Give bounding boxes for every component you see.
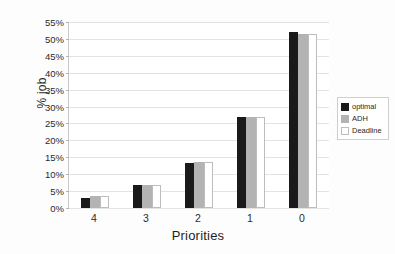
- bar-deadline-p3: [152, 185, 161, 208]
- bar-optimal-p4: [81, 198, 90, 208]
- bar-group: [133, 22, 161, 208]
- y-axis-tick-label: 55%: [28, 17, 64, 28]
- x-axis-tick-labels: 43210: [68, 212, 328, 228]
- bar-deadline-p0: [308, 34, 317, 208]
- bar-group: [81, 22, 109, 208]
- x-axis-title: Priorities: [68, 228, 328, 243]
- bar-optimal-p0: [289, 32, 298, 208]
- x-axis-tick-label: 1: [247, 212, 253, 224]
- bar-adh-p1: [246, 117, 255, 208]
- legend-label: Deadline: [352, 126, 382, 135]
- bars-layer: [69, 22, 329, 208]
- bar-optimal-p2: [185, 163, 194, 208]
- y-axis-tickmark: [66, 208, 69, 209]
- y-axis-tick-label: 20%: [28, 135, 64, 146]
- bar-deadline-p1: [256, 117, 265, 208]
- bar-deadline-p4: [100, 196, 109, 209]
- bar-group: [289, 22, 317, 208]
- x-axis-tick-label: 3: [143, 212, 149, 224]
- bar-adh-p0: [298, 34, 307, 208]
- legend-label: ADH: [352, 114, 368, 123]
- bar-optimal-p3: [133, 185, 142, 208]
- bar-adh-p2: [194, 162, 203, 208]
- bar-group: [185, 22, 213, 208]
- chart-legend: optimalADHDeadline: [337, 97, 389, 140]
- bar-optimal-p1: [237, 117, 246, 208]
- bar-group: [237, 22, 265, 208]
- y-axis-tick-label: 30%: [28, 101, 64, 112]
- y-axis-tick-label: 40%: [28, 67, 64, 78]
- x-axis-tick-label: 0: [299, 212, 305, 224]
- bar-deadline-p2: [204, 162, 213, 208]
- y-axis-tick-label: 15%: [28, 152, 64, 163]
- bar-adh-p4: [90, 196, 99, 209]
- legend-entry-optimal: optimal: [341, 101, 385, 112]
- bar-chart-figure: % job 0%5%10%15%20%25%30%35%40%45%50%55%…: [0, 0, 395, 254]
- y-axis-tick-label: 5%: [28, 186, 64, 197]
- y-axis-tick-label: 0%: [28, 203, 64, 214]
- legend-label: optimal: [352, 102, 376, 111]
- x-axis-tick-label: 2: [195, 212, 201, 224]
- y-axis-tick-label: 25%: [28, 118, 64, 129]
- legend-swatch-optimal: [341, 103, 349, 111]
- y-axis-tick-label: 45%: [28, 50, 64, 61]
- y-axis-tick-label: 50%: [28, 33, 64, 44]
- legend-swatch-deadline: [341, 127, 349, 135]
- plot-area: [68, 22, 329, 209]
- legend-swatch-adh: [341, 115, 349, 123]
- y-axis-tick-label: 10%: [28, 169, 64, 180]
- bar-adh-p3: [142, 185, 151, 208]
- legend-entry-adh: ADH: [341, 113, 385, 124]
- y-axis-tick-labels: 0%5%10%15%20%25%30%35%40%45%50%55%: [28, 15, 64, 215]
- x-axis-tick-label: 4: [91, 212, 97, 224]
- legend-entry-deadline: Deadline: [341, 125, 385, 136]
- y-axis-tick-label: 35%: [28, 84, 64, 95]
- gridline: [69, 208, 329, 209]
